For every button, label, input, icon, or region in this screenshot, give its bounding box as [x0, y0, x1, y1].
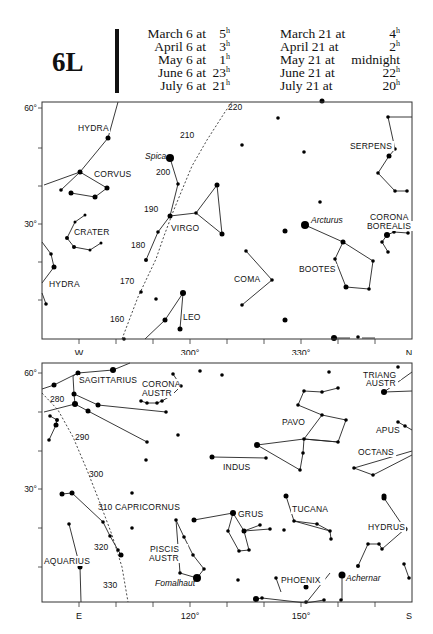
star [292, 519, 296, 523]
constellation-name: HYDRUS [368, 522, 405, 532]
star [202, 567, 206, 571]
star [101, 520, 105, 524]
star [119, 553, 124, 558]
star [130, 491, 134, 495]
star [371, 473, 375, 477]
star [72, 401, 78, 407]
chart-content: 28029030031032033060°30°E120°150°SSAGITT… [24, 363, 412, 621]
star [176, 433, 180, 437]
star [145, 401, 149, 405]
star [301, 451, 305, 455]
constellation-line [404, 564, 409, 578]
star [328, 529, 332, 533]
lower-star-chart: 28029030031032033060°30°E120°150°SSAGITT… [0, 0, 433, 634]
ecliptic-label: 280 [50, 394, 64, 404]
altitude-label: 60° [24, 368, 37, 378]
star [164, 410, 168, 414]
altitude-label: 30° [24, 484, 37, 494]
star [381, 389, 387, 395]
constellation-line [194, 513, 233, 520]
star [242, 529, 247, 534]
constellation-line [73, 373, 78, 404]
star [352, 466, 356, 470]
star-name: Achernar [345, 573, 382, 583]
star [86, 409, 91, 414]
constellation-line [286, 496, 331, 539]
star [108, 534, 112, 538]
constellation-name: PHOENIX [281, 575, 321, 585]
star [253, 596, 259, 602]
star [302, 437, 306, 441]
constellation-name: INDUS [223, 462, 251, 472]
star [236, 578, 240, 582]
star [327, 370, 331, 374]
star [298, 468, 302, 472]
constellation-line [212, 457, 266, 458]
azimuth-label: S [406, 611, 412, 621]
star [182, 535, 186, 539]
star [155, 401, 159, 405]
constellation-name: AQUARIUS [44, 556, 90, 566]
star [67, 522, 71, 526]
star [254, 442, 260, 448]
constellation-name: PAVO [282, 417, 305, 427]
ecliptic-label: 310 [98, 502, 112, 512]
star [210, 455, 215, 460]
star [144, 458, 148, 462]
star [377, 542, 381, 546]
star [60, 492, 65, 497]
star [48, 414, 52, 418]
star [220, 373, 224, 377]
constellation-line [88, 411, 147, 442]
constellation-name: AUSTR [366, 378, 396, 388]
star [284, 494, 289, 499]
star [302, 389, 306, 393]
star [282, 528, 286, 532]
star [116, 548, 120, 552]
star [274, 576, 278, 580]
ecliptic-label: 330 [103, 580, 117, 590]
star [339, 598, 343, 602]
star [226, 529, 230, 533]
star [54, 423, 59, 428]
azimuth-label: 120° [181, 611, 200, 621]
star [396, 365, 400, 369]
star [230, 510, 236, 516]
star [264, 456, 268, 460]
star [160, 399, 164, 403]
star [336, 440, 340, 444]
star [192, 518, 197, 523]
star [70, 491, 75, 496]
star [336, 386, 340, 390]
star [260, 596, 264, 600]
constellation-line [257, 445, 300, 470]
star [72, 392, 77, 397]
star [145, 440, 149, 444]
star [198, 369, 202, 373]
star [258, 523, 262, 527]
star [339, 572, 346, 579]
constellation-name: AUSTR [149, 553, 179, 563]
star [403, 424, 407, 428]
star [356, 564, 360, 568]
azimuth-label: 150° [292, 611, 311, 621]
star [382, 496, 387, 501]
star [47, 438, 51, 442]
star [396, 420, 400, 424]
constellation-name: CAPRICORNUS [115, 502, 180, 512]
constellation-name: SAGITTARIUS [79, 375, 137, 385]
star [247, 548, 251, 552]
star [110, 367, 116, 373]
star [320, 413, 324, 417]
star [171, 372, 175, 376]
star [130, 526, 134, 530]
star [139, 399, 143, 403]
star-name: Fomalhaut [155, 578, 196, 588]
constellation-name: GRUS [238, 509, 263, 519]
ecliptic-label: 290 [75, 432, 89, 442]
ecliptic-label: 300 [89, 469, 103, 479]
constellation-line [384, 391, 412, 392]
constellation-name: OCTANS [358, 447, 394, 457]
constellation-name: AUSTR [142, 388, 172, 398]
star [191, 553, 195, 557]
